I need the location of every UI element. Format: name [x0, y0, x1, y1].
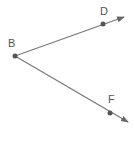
point-d [101, 22, 106, 27]
point-b [13, 54, 18, 59]
label-d: D [100, 5, 108, 17]
label-f: F [108, 93, 115, 105]
point-f [108, 111, 113, 116]
angle-diagram: B D F [0, 0, 134, 143]
ray-bd [15, 17, 124, 56]
label-b: B [8, 37, 15, 49]
